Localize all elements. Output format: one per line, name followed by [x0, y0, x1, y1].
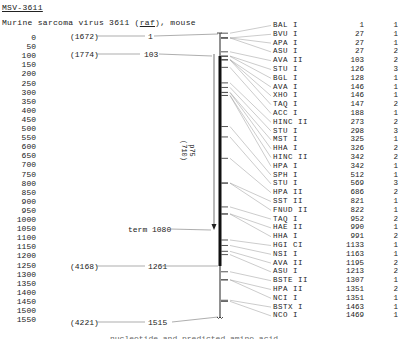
site-enzyme: STU I	[273, 127, 298, 136]
site-position: 273	[334, 118, 364, 127]
site-enzyme: BSTX I	[273, 303, 303, 312]
site-count: 3	[388, 65, 398, 74]
site-count: 2	[388, 188, 398, 197]
site-enzyme: HAE II	[273, 223, 303, 232]
site-position: 147	[334, 100, 364, 109]
site-enzyme: MST I	[273, 135, 298, 144]
site-enzyme: ACC I	[273, 109, 298, 118]
site-count: 2	[388, 118, 398, 127]
site-position: 342	[334, 153, 364, 162]
site-count: 1	[388, 162, 398, 171]
site-position: 298	[334, 127, 364, 136]
site-count: 1	[388, 294, 398, 303]
site-position: 1463	[334, 303, 364, 312]
site-count: 3	[388, 179, 398, 188]
site-count: 1	[388, 91, 398, 100]
site-position: 512	[334, 171, 364, 180]
site-count: 1	[388, 21, 398, 30]
site-position: 822	[334, 206, 364, 215]
site-count: 1	[388, 241, 398, 250]
site-position: 126	[334, 65, 364, 74]
site-enzyme: HPA II	[273, 188, 303, 197]
site-position: 188	[334, 109, 364, 118]
site-position: 146	[334, 91, 364, 100]
site-count: 1	[388, 303, 398, 312]
site-count: 2	[388, 285, 398, 294]
site-count: 1	[388, 30, 398, 39]
site-enzyme: ASU I	[273, 47, 298, 56]
site-enzyme: SST II	[273, 197, 303, 206]
site-count: 1	[388, 135, 398, 144]
site-enzyme: NSI I	[273, 250, 298, 259]
site-count: 1	[388, 39, 398, 48]
site-enzyme: BGL I	[273, 74, 298, 83]
site-enzyme: HGI CI	[273, 241, 303, 250]
site-position: 326	[334, 144, 364, 153]
site-count: 2	[388, 215, 398, 224]
site-enzyme: HHA I	[273, 232, 298, 241]
site-enzyme: AVA I	[273, 83, 298, 92]
site-count: 1	[388, 250, 398, 259]
site-position: 1195	[334, 259, 364, 268]
site-enzyme: HPA II	[273, 285, 303, 294]
site-position: 1133	[334, 241, 364, 250]
site-count: 2	[388, 232, 398, 241]
site-enzyme: BSTE II	[273, 276, 308, 285]
site-position: 325	[334, 135, 364, 144]
site-enzyme: HPA I	[273, 162, 298, 171]
site-position: 952	[334, 215, 364, 224]
site-count: 1	[388, 276, 398, 285]
site-count: 1	[388, 311, 398, 320]
site-position: 1213	[334, 267, 364, 276]
site-count: 1	[388, 223, 398, 232]
site-enzyme: XHO I	[273, 91, 298, 100]
site-position: 821	[334, 197, 364, 206]
site-position: 1351	[334, 294, 364, 303]
site-enzyme: TAQ I	[273, 215, 298, 224]
site-position: 27	[334, 47, 364, 56]
site-position: 1351	[334, 285, 364, 294]
site-position: 27	[334, 39, 364, 48]
site-enzyme: NCI I	[273, 294, 298, 303]
site-position: 686	[334, 188, 364, 197]
site-count: 2	[388, 259, 398, 268]
site-enzyme: TAQ I	[273, 100, 298, 109]
site-count: 2	[388, 153, 398, 162]
site-enzyme: HHA I	[273, 144, 298, 153]
site-count: 2	[388, 100, 398, 109]
site-enzyme: STU I	[273, 65, 298, 74]
site-count: 1	[388, 206, 398, 215]
site-count: 1	[388, 74, 398, 83]
site-enzyme: STU I	[273, 179, 298, 188]
site-count: 2	[388, 144, 398, 153]
site-position: 1163	[334, 250, 364, 259]
site-count: 1	[388, 109, 398, 118]
site-position: 342	[334, 162, 364, 171]
site-position: 146	[334, 83, 364, 92]
site-position: 1307	[334, 276, 364, 285]
figure-caption: nucleotide and predicted amino acid	[110, 334, 278, 339]
site-enzyme: BAL I	[273, 21, 298, 30]
site-position: 27	[334, 30, 364, 39]
site-count: 1	[388, 83, 398, 92]
site-position: 128	[334, 74, 364, 83]
site-position: 990	[334, 223, 364, 232]
site-enzyme: APA I	[273, 39, 298, 48]
site-enzyme: HINC II	[273, 153, 308, 162]
site-enzyme: ASU I	[273, 267, 298, 276]
site-enzyme: AVA II	[273, 56, 303, 65]
site-position: 103	[334, 56, 364, 65]
site-count: 2	[388, 56, 398, 65]
site-enzyme: SPH I	[273, 171, 298, 180]
site-count: 2	[388, 47, 398, 56]
site-enzyme: HINC II	[273, 118, 308, 127]
site-position: 1469	[334, 311, 364, 320]
site-enzyme: AVA II	[273, 259, 303, 268]
site-count: 1	[388, 171, 398, 180]
site-position: 1	[334, 21, 364, 30]
site-enzyme: BVU I	[273, 30, 298, 39]
site-count: 3	[388, 127, 398, 136]
site-position: 991	[334, 232, 364, 241]
site-enzyme: NCO I	[273, 311, 298, 320]
site-position: 569	[334, 179, 364, 188]
